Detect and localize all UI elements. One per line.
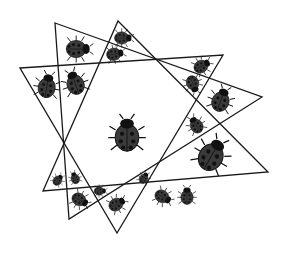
ladybug-head [83,44,90,54]
ladybug-spot [183,194,185,196]
ladybug-spot [72,43,75,46]
ladybug-spot [189,198,191,200]
ladybug-spot [72,52,75,55]
ladybug [68,187,95,214]
ladybug-head [120,119,134,129]
ladybug [151,184,178,211]
ladybug-spot [95,192,97,194]
diagram-canvas [0,0,284,255]
ladybug-spot [188,194,190,196]
ladybug-spot [115,39,117,41]
ladybug-spot [120,132,124,136]
ladybug-spot [100,192,102,194]
ladybug-spot [115,35,117,37]
ladybug-head [183,188,190,193]
ladybug-head [126,34,131,41]
ladybug-spot [183,198,185,200]
ladybug-spot [97,192,99,194]
ladybug [181,73,206,98]
ladybug-spot [119,40,121,42]
ladybug-spot [119,139,123,143]
ladybug [177,185,197,205]
ladybug-spot [123,39,125,41]
ladybug-spot [123,34,125,36]
ladybug-spot [184,201,186,203]
ladybug-spot [67,50,70,53]
ladybug-spot [67,45,70,48]
ladybug-spot [77,44,80,47]
ladybug-spot [100,188,102,190]
ladybug-spot [130,132,134,136]
ladybug [66,36,93,63]
ladybug-spot [121,145,125,149]
ladybug-spot [129,145,133,149]
triangles-ladybugs-diagram [0,0,284,255]
ladybug-head [102,189,106,194]
ladybug-spot [77,51,80,54]
ladybug-spot [97,188,99,190]
ladybug [204,81,239,116]
ladybug-spot [119,34,121,36]
ladybug-spot [188,201,190,203]
ladybug [108,114,146,152]
ladybug-spot [95,189,97,191]
ladybug-spot [131,139,135,143]
